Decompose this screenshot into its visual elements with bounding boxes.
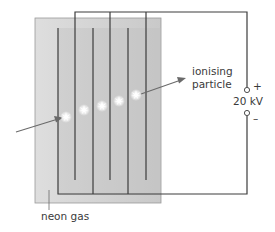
ionising-label-line1: ionising <box>192 65 233 77</box>
spark-icon <box>130 89 142 101</box>
spark-icon <box>96 100 108 112</box>
spark-icon <box>60 111 72 123</box>
spark-icon <box>78 104 90 116</box>
plus-sign: + <box>253 80 262 92</box>
outgoing-arrowhead-icon <box>177 77 186 84</box>
minus-sign: – <box>253 112 258 124</box>
voltage-label: 20 kV <box>233 95 263 107</box>
neon-gas-label: neon gas <box>41 210 89 222</box>
particle-label-line2: particle <box>192 78 232 90</box>
spark-icon <box>113 95 125 107</box>
spark-chamber-diagram <box>0 0 275 232</box>
negative-terminal <box>244 110 249 115</box>
positive-terminal <box>244 87 249 92</box>
